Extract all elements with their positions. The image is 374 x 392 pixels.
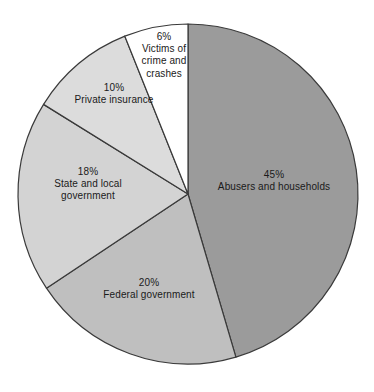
- pie-slice-name: State and localgovernment: [54, 178, 122, 202]
- pie-slice-percent: 6%: [142, 31, 187, 43]
- pie-slice-name-line: Abusers and households: [218, 181, 330, 193]
- pie-slice-label: 10%Private insurance: [75, 82, 154, 106]
- pie-chart: 45%Abusers and households20%Federal gove…: [0, 0, 374, 392]
- pie-slice-name-line: State and local: [54, 178, 122, 190]
- pie-slice-name-line: crashes: [142, 67, 187, 79]
- pie-slice-name: Abusers and households: [218, 181, 330, 193]
- pie-slice-percent: 18%: [54, 166, 122, 178]
- pie-slice-name: Victims ofcrime andcrashes: [142, 43, 187, 80]
- pie-slice-percent: 20%: [103, 277, 194, 289]
- pie-slice-name: Private insurance: [75, 94, 154, 106]
- pie-slice-label: 6%Victims ofcrime andcrashes: [142, 31, 187, 80]
- pie-slice-name-line: Federal government: [103, 289, 194, 301]
- pie-slice-name-line: government: [54, 190, 122, 202]
- pie-slice-name: Federal government: [103, 289, 194, 301]
- pie-slice-percent: 10%: [75, 82, 154, 94]
- pie-slice-name-line: crime and: [142, 55, 187, 67]
- pie-slice-label: 20%Federal government: [103, 277, 194, 301]
- pie-slice-label: 18%State and localgovernment: [54, 166, 122, 203]
- pie-slice-percent: 45%: [218, 169, 330, 181]
- pie-slice-name-line: Private insurance: [75, 94, 154, 106]
- pie-slice-name-line: Victims of: [142, 43, 187, 55]
- pie-slice-label: 45%Abusers and households: [218, 169, 330, 193]
